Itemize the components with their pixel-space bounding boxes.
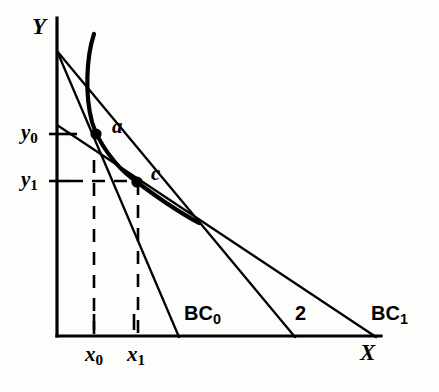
line-label-bc1: BC1 <box>371 303 408 323</box>
line-label-bc0: BC0 <box>184 303 221 323</box>
tick-label-y0-base: y <box>21 120 30 144</box>
point-label-a: a <box>112 116 123 137</box>
indifference-curve-figure: Y X y0 y1 x0 x1 a c BC0 2 BC1 <box>0 0 439 392</box>
tick-label-y0: y0 <box>21 122 38 143</box>
point-a-marker <box>90 128 101 139</box>
y-axis-label: Y <box>32 15 46 38</box>
tick-label-x1-base: x <box>127 342 138 366</box>
line-label-bc0-base: BC <box>184 302 213 324</box>
tick-label-y0-subscript: 0 <box>30 130 38 146</box>
point-label-c: c <box>151 163 160 184</box>
line-label-bc1-base: BC <box>371 302 400 324</box>
tick-label-x1-subscript: 1 <box>138 352 146 368</box>
tick-label-x0-base: x <box>85 342 96 366</box>
line-label-2: 2 <box>295 303 306 323</box>
tick-label-x0: x0 <box>85 344 103 365</box>
x-axis-label: X <box>360 341 375 364</box>
line-label-bc1-subscript: 1 <box>400 311 408 327</box>
tick-label-y1-base: y <box>21 167 30 191</box>
tick-label-y1: y1 <box>21 169 38 190</box>
tick-label-x0-subscript: 0 <box>96 352 104 368</box>
point-c-marker <box>131 176 142 187</box>
diagram-canvas <box>0 0 439 392</box>
indifference-curve <box>87 34 199 223</box>
tick-label-y1-subscript: 1 <box>30 177 38 193</box>
line-label-bc0-subscript: 0 <box>213 311 221 327</box>
tick-label-x1: x1 <box>127 344 145 365</box>
